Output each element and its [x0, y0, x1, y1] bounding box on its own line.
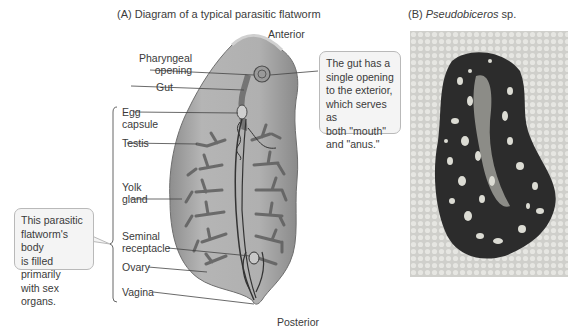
label-vagina: Vagina	[122, 286, 154, 298]
callout-sex-organs: This parasitic flatworm's body is filled…	[14, 208, 94, 270]
seminal-receptacle	[249, 252, 259, 264]
label-ovary: Ovary	[122, 261, 150, 273]
egg-capsule	[237, 105, 247, 119]
pseudobiceros-photo	[410, 31, 568, 277]
pharyngeal-opening	[254, 66, 270, 82]
label-yolk-gland: Yolk gland	[122, 181, 148, 205]
posterior-label: Posterior	[277, 316, 319, 328]
callout-gut-opening: The gut has a single opening to the exte…	[319, 51, 401, 134]
pseudobiceros-image	[410, 31, 568, 277]
label-gut: Gut	[156, 81, 173, 93]
anterior-label: Anterior	[268, 28, 305, 40]
label-testis: Testis	[122, 137, 149, 149]
label-pharyngeal-opening: Pharyngeal opening	[139, 52, 192, 76]
label-seminal-receptacle: Seminal receptacle	[122, 230, 170, 254]
label-egg-capsule: Egg capsule	[122, 106, 158, 130]
body-bracket	[110, 107, 117, 302]
